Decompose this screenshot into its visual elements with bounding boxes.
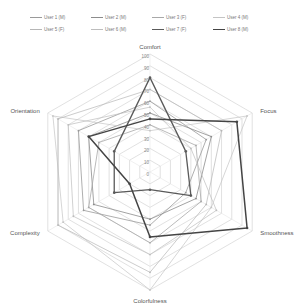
legend-row: User 1 (M) User 2 (M) User 3 (F) User 4 … bbox=[30, 12, 280, 23]
legend-swatch bbox=[91, 17, 103, 18]
legend-swatch bbox=[152, 17, 164, 18]
series-marker bbox=[113, 191, 116, 194]
legend-label: User 4 (M) bbox=[227, 15, 248, 20]
series-marker bbox=[236, 121, 239, 124]
radar-chart-figure: 0102030405060708090100 ComfortFocusSmoot… bbox=[0, 0, 302, 306]
legend-row: User 5 (F) User 6 (M) User 7 (F) User 8 … bbox=[30, 24, 280, 35]
legend-item: User 5 (F) bbox=[30, 27, 91, 32]
legend-item: User 2 (M) bbox=[91, 15, 152, 20]
series-marker bbox=[246, 227, 249, 230]
series-line bbox=[89, 119, 247, 237]
series-marker bbox=[88, 207, 90, 209]
tick-label: 100 bbox=[141, 54, 149, 59]
series-marker bbox=[149, 89, 151, 91]
series-marker bbox=[62, 221, 64, 223]
series-marker bbox=[149, 76, 152, 79]
series-marker bbox=[200, 201, 202, 203]
radar-chart: 0102030405060708090100 ComfortFocusSmoot… bbox=[0, 0, 302, 306]
series-marker bbox=[185, 192, 187, 194]
legend-swatch bbox=[152, 29, 164, 30]
series-marker bbox=[149, 124, 151, 126]
legend-label: User 5 (F) bbox=[44, 27, 64, 32]
tick-label: 10 bbox=[144, 160, 150, 165]
legend-swatch bbox=[213, 17, 225, 18]
legend-item: User 1 (M) bbox=[30, 15, 91, 20]
series-marker bbox=[57, 118, 59, 120]
tick-label: 20 bbox=[144, 148, 150, 153]
legend-label: User 7 (F) bbox=[166, 27, 186, 32]
series-marker bbox=[52, 115, 54, 117]
legend-label: User 3 (F) bbox=[166, 15, 186, 20]
axis-label-colorfulness: Colorfulness bbox=[133, 298, 166, 304]
series-marker bbox=[149, 130, 151, 132]
legend-label: User 2 (M) bbox=[105, 15, 126, 20]
tick-label: 90 bbox=[144, 66, 150, 71]
series-marker bbox=[184, 150, 187, 153]
series-marker bbox=[78, 130, 80, 132]
legend-swatch bbox=[30, 17, 42, 18]
legend-item: User 6 (M) bbox=[91, 27, 152, 32]
series-marker bbox=[149, 100, 151, 102]
series-marker bbox=[195, 145, 197, 147]
series-marker bbox=[72, 215, 74, 217]
series-marker bbox=[210, 136, 212, 138]
legend-label: User 6 (M) bbox=[105, 27, 126, 32]
legend-item: User 7 (F) bbox=[152, 27, 213, 32]
legend-label: User 8 (M) bbox=[227, 27, 248, 32]
series-marker bbox=[205, 139, 207, 141]
series-marker bbox=[113, 150, 116, 153]
legend-swatch bbox=[91, 29, 103, 30]
legend-swatch bbox=[213, 29, 225, 30]
series-marker bbox=[149, 118, 152, 121]
legend-item: User 3 (F) bbox=[152, 15, 213, 20]
series-marker bbox=[149, 242, 151, 244]
series-marker bbox=[149, 224, 151, 226]
series-marker bbox=[149, 271, 151, 273]
series-marker bbox=[83, 209, 85, 211]
tick-label: 30 bbox=[144, 137, 150, 142]
axis-label-smoothness: Smoothness bbox=[260, 230, 293, 236]
series-marker bbox=[57, 224, 59, 226]
series-marker bbox=[149, 106, 151, 108]
series-marker bbox=[221, 130, 223, 132]
series-marker bbox=[149, 112, 151, 114]
series-marker bbox=[149, 289, 151, 291]
axis-label-orientation: Orientation bbox=[10, 108, 39, 114]
series-marker bbox=[190, 148, 192, 150]
legend-swatch bbox=[30, 29, 42, 30]
series-marker bbox=[128, 183, 131, 186]
series-marker bbox=[93, 204, 95, 206]
axis-label-complexity: Complexity bbox=[10, 230, 40, 236]
series-marker bbox=[98, 142, 100, 144]
axis-label-focus: Focus bbox=[260, 108, 276, 114]
series-marker bbox=[246, 115, 248, 117]
series-marker bbox=[149, 188, 152, 191]
series-marker bbox=[205, 204, 207, 206]
legend-label: User 1 (M) bbox=[44, 15, 65, 20]
series-marker bbox=[216, 209, 218, 211]
series-marker bbox=[149, 254, 151, 256]
series-marker bbox=[149, 218, 151, 220]
series-marker bbox=[87, 135, 90, 138]
chart-legend: User 1 (M) User 2 (M) User 3 (F) User 4 … bbox=[30, 12, 280, 36]
series-marker bbox=[149, 236, 152, 239]
series-marker bbox=[67, 124, 69, 126]
legend-item: User 8 (M) bbox=[213, 27, 274, 32]
series-marker bbox=[195, 198, 197, 200]
series-marker bbox=[190, 194, 193, 197]
series-marker bbox=[210, 207, 212, 209]
axis-label-comfort: Comfort bbox=[139, 44, 161, 50]
legend-item: User 4 (M) bbox=[213, 15, 274, 20]
